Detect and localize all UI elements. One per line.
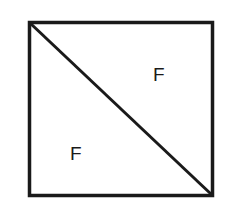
- label-upper-right: F: [153, 64, 165, 85]
- square-diagram: F F: [0, 0, 233, 209]
- label-lower-left: F: [70, 143, 82, 164]
- diagonal-line: [30, 23, 212, 195]
